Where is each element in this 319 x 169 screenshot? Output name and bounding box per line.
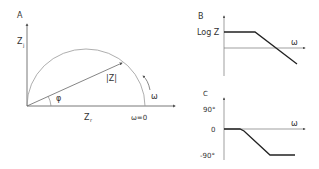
impedance-diagram: A Z j Z r |Z| φ ω ω=0 B Log Z ω C 90° 0 …	[0, 0, 319, 169]
impedance-magnitude-label: |Z|	[106, 74, 117, 83]
log-z-label: Log Z	[197, 28, 220, 37]
phase-curve	[224, 129, 295, 155]
tick-0: 0	[211, 126, 215, 134]
panel-b-letter: B	[198, 12, 204, 21]
zj-axis-subscript: j	[22, 42, 24, 49]
panel-c-bode-phase	[224, 98, 305, 160]
zr-axis-subscript: r	[90, 117, 93, 123]
tick-minus-90: -90°	[200, 152, 215, 160]
frequency-direction-arrow	[143, 76, 150, 90]
phase-angle-label: φ	[56, 94, 61, 103]
semicircle-arc	[27, 49, 145, 106]
c-omega-label: ω	[291, 119, 298, 128]
tick-90: 90°	[203, 106, 215, 114]
panel-a-letter: A	[17, 11, 23, 20]
impedance-vector	[27, 63, 122, 106]
phase-angle-arc	[48, 96, 51, 106]
b-omega-label: ω	[291, 38, 298, 47]
zero-frequency-label: ω=0	[131, 114, 147, 122]
frequency-label: ω	[151, 92, 158, 101]
panel-c-letter: C	[203, 90, 208, 98]
